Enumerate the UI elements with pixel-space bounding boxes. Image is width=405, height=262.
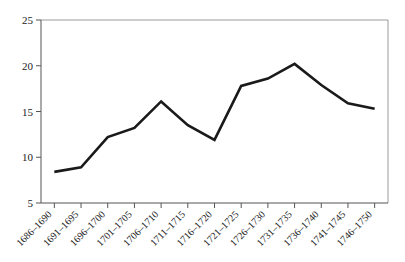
y-tick-label-5: 5 [28, 197, 34, 209]
y-tick-label-10: 10 [22, 151, 34, 163]
y-tick-label-20: 20 [22, 60, 34, 72]
y-tick-label-25: 25 [22, 14, 34, 26]
y-tick-label-15: 15 [22, 106, 34, 118]
line-chart: 25 20 15 10 5 1686–16901691–16951696–170… [0, 0, 405, 262]
chart-figure: 25 20 15 10 5 1686–16901691–16951696–170… [0, 0, 405, 262]
